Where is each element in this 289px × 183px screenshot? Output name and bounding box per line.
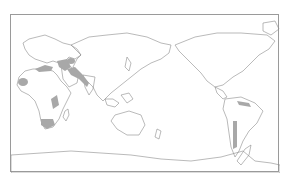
shaded-regions [18,58,251,149]
coastlines [11,21,280,173]
world-map-frame [10,14,279,172]
map-title-cropped: ━━━━━ ━━━ [10,0,86,3]
world-map [11,15,280,173]
